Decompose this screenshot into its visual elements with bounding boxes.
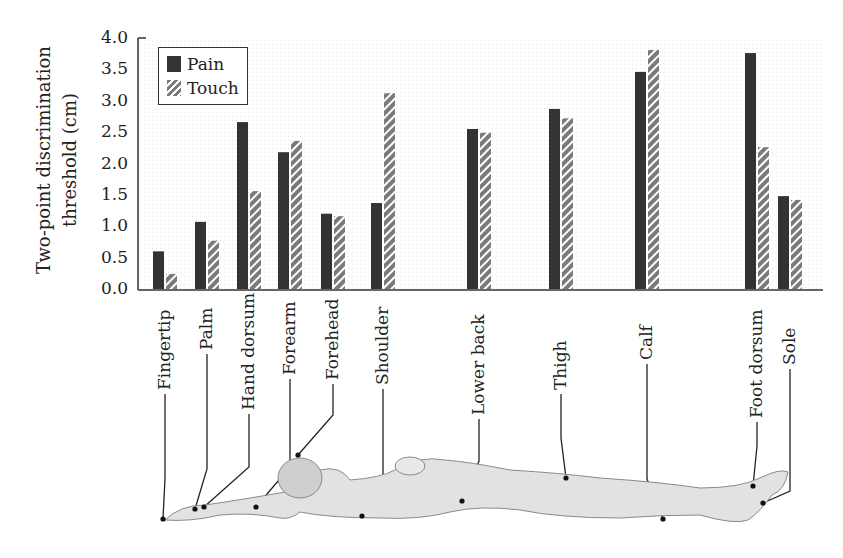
- bar-pain: [635, 72, 646, 289]
- body-marker-dot: [160, 516, 165, 521]
- y-tick-label: 3.0: [78, 90, 128, 110]
- category-label: Palm: [196, 308, 216, 350]
- bar-pain: [237, 122, 248, 289]
- legend-item-pain: Pain: [167, 54, 224, 74]
- y-tick-label: 2.0: [78, 153, 128, 173]
- y-tick-label: 0.5: [78, 247, 128, 267]
- category-label: Foot dorsum: [746, 309, 766, 418]
- category-label: Shoulder: [372, 307, 392, 385]
- body-marker-dot: [660, 516, 665, 521]
- bar-pain: [278, 152, 289, 289]
- bar-touch: [648, 50, 659, 289]
- bar-touch: [166, 274, 177, 289]
- y-tick-label: 1.5: [78, 184, 128, 204]
- figure: Two-point discrimination threshold (cm) …: [0, 0, 843, 558]
- legend: Pain Touch: [158, 47, 248, 105]
- bar-touch: [562, 118, 573, 289]
- category-label: Thigh: [550, 340, 570, 390]
- y-tick-label: 0.0: [78, 278, 128, 298]
- body-marker-dot: [459, 498, 464, 503]
- body-marker-dot: [295, 452, 300, 457]
- body-marker-dot: [750, 483, 755, 488]
- category-label: Hand dorsum: [238, 293, 258, 410]
- touch-swatch-icon: [167, 80, 181, 96]
- bar-touch: [480, 133, 491, 289]
- body-marker-dot: [253, 504, 258, 509]
- svg-text:Two-point discrimination: Two-point discrimination: [33, 46, 54, 274]
- bar-touch: [208, 241, 219, 289]
- y-tick-label: 1.0: [78, 215, 128, 235]
- body-marker-dot: [563, 475, 568, 480]
- bar-pain: [371, 203, 382, 289]
- svg-text:threshold (cm): threshold (cm): [59, 93, 80, 227]
- y-tick-label: 3.5: [78, 58, 128, 78]
- bar-pain: [321, 214, 332, 289]
- legend-label-pain: Pain: [187, 54, 224, 74]
- category-label: Calf: [636, 325, 656, 360]
- bar-touch: [250, 191, 261, 289]
- bar-pain: [549, 109, 560, 289]
- pain-swatch-icon: [167, 56, 181, 72]
- bar-pain: [153, 251, 164, 289]
- y-tick-label: 2.5: [78, 121, 128, 141]
- body-marker-dot: [760, 500, 765, 505]
- bar-touch: [384, 93, 395, 289]
- bar-pain: [745, 53, 756, 289]
- category-label: Forearm: [279, 301, 299, 375]
- body-illustration: [165, 457, 788, 522]
- legend-item-touch: Touch: [167, 78, 239, 98]
- bar-pain: [778, 196, 789, 289]
- category-label: Forehead: [322, 299, 342, 380]
- body-marker-dot: [201, 504, 206, 509]
- bar-touch: [334, 216, 345, 289]
- category-label: Sole: [779, 328, 799, 365]
- body-marker-dot: [359, 513, 364, 518]
- y-tick-label: 4.0: [78, 27, 128, 47]
- legend-label-touch: Touch: [187, 78, 239, 98]
- category-label: Fingertip: [154, 310, 174, 390]
- bar-pain: [467, 129, 478, 289]
- category-label: Lower back: [468, 314, 488, 415]
- bar-touch: [758, 147, 769, 289]
- body-marker-dot: [192, 506, 197, 511]
- bar-touch: [291, 141, 302, 289]
- bar-pain: [195, 222, 206, 289]
- bar-touch: [791, 200, 802, 289]
